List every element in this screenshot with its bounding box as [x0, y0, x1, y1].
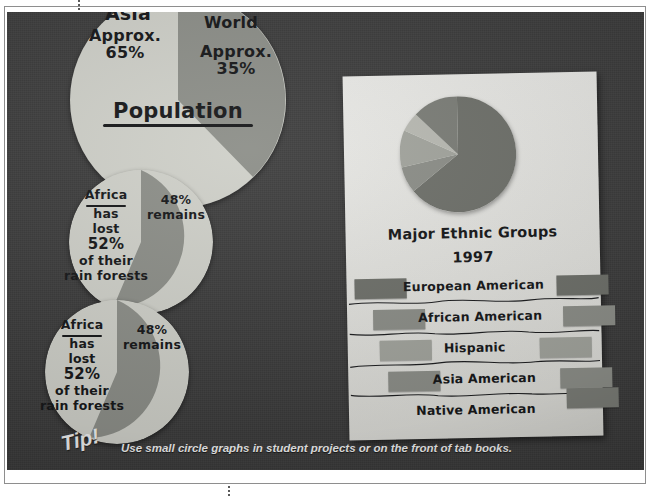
- label-asia: Asia: [76, 12, 180, 24]
- registration-mark-bottom: [228, 486, 230, 498]
- tip-label: Tip!: [59, 424, 102, 456]
- ethnic-groups-poster: Major Ethnic Groups 1997 European Americ…: [343, 72, 604, 441]
- legend-label: Native American: [349, 401, 603, 419]
- poster-legend: European American African American: [346, 272, 603, 437]
- major-ethnic-groups-pie-chart: [399, 95, 517, 213]
- scanned-page: Asia Approx. 65% Rest of World Approx. 3…: [0, 0, 650, 498]
- legend-item-hispanic: Hispanic: [348, 334, 603, 370]
- poster-year: 1997: [346, 248, 600, 268]
- label-asia-value: Approx. 65%: [70, 28, 180, 62]
- registration-mark-top: [78, 0, 80, 12]
- legend-item-african-american: African American: [347, 303, 602, 339]
- tip-strip: Tip! Use small circle graphs in student …: [61, 426, 621, 462]
- label-africa-lost-1: Africa has lost 52% of their rain forest…: [63, 188, 149, 283]
- africa-labels-2: Africa has lost 52% of their rain forest…: [45, 300, 189, 444]
- label-remains-2: 48% remains: [117, 322, 187, 352]
- label-rest-of-world: Rest of World: [182, 12, 280, 32]
- title-underline: [103, 124, 253, 127]
- legend-item-european-american: European American: [346, 272, 601, 308]
- label-rest-of-world-value: Approx. 35%: [188, 44, 284, 78]
- label-remains-1: 48% remains: [141, 192, 211, 222]
- tip-text: Use small circle graphs in student proje…: [121, 442, 512, 454]
- bulletin-board: Asia Approx. 65% Rest of World Approx. 3…: [7, 12, 644, 470]
- label-africa-lost-2: Africa has lost 52% of their rain forest…: [39, 318, 125, 413]
- legend-item-asia-american: Asia American: [348, 365, 603, 401]
- poster-title: Major Ethnic Groups: [345, 224, 599, 244]
- africa-labels-1: Africa has lost 52% of their rain forest…: [69, 170, 213, 314]
- population-chart-title: Population: [92, 100, 264, 127]
